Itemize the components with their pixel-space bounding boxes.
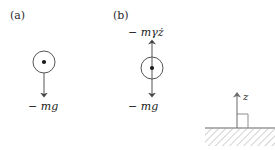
axis-reference-diagram bbox=[0, 0, 275, 150]
right-angle-marker bbox=[237, 114, 248, 128]
physics-free-body-figure: (a) − mg (b) − mγż − mg bbox=[0, 0, 275, 150]
ground-hatching bbox=[205, 128, 275, 146]
z-axis-label: z bbox=[243, 91, 248, 102]
